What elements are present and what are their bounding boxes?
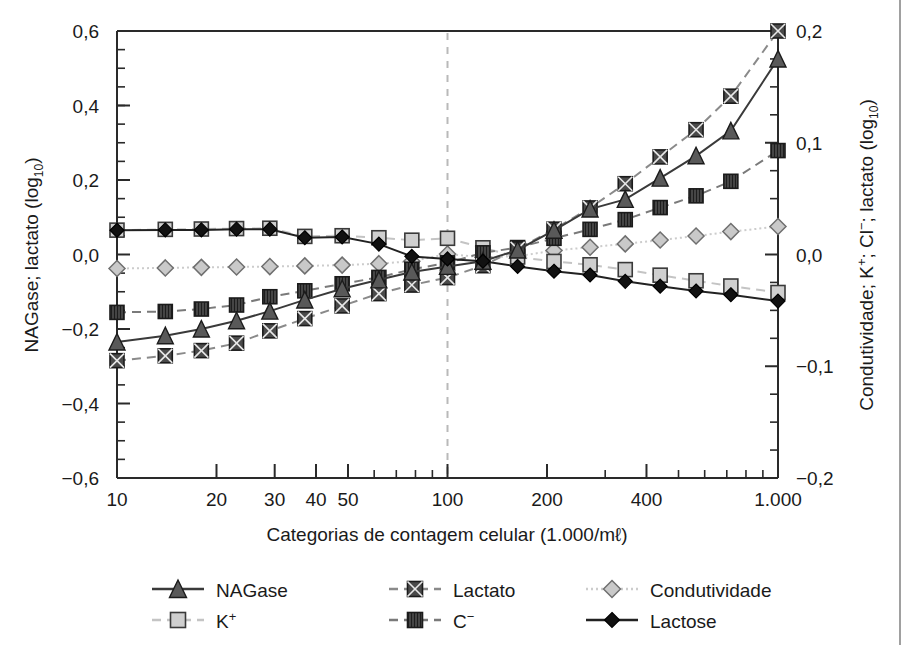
- chart-canvas: −0,6−0,4−0,20,00,20,40,6 −0,2−0,10,00,10…: [0, 0, 904, 645]
- data-point: [405, 233, 419, 247]
- left-tick-label: −0,6: [61, 468, 99, 489]
- x-tick-label: 30: [264, 489, 285, 510]
- right-tick-label: 0,2: [796, 21, 822, 42]
- data-point: [583, 222, 597, 236]
- page-background: [0, 0, 904, 645]
- right-tick-label: −0,1: [796, 356, 834, 377]
- right-tick-label: −0,2: [796, 468, 834, 489]
- right-tick-label: 0,0: [796, 245, 822, 266]
- x-axis-title: Categorias de contagem celular (1.000/mℓ…: [267, 524, 628, 545]
- data-point: [441, 231, 455, 245]
- left-tick-label: −0,4: [61, 394, 99, 415]
- x-tick-label: 200: [531, 489, 563, 510]
- x-tick-label: 1.000: [754, 489, 802, 510]
- right-axis-title: Condutividade; K+; Cl−; lactato (log10): [854, 99, 881, 411]
- left-tick-label: 0,4: [73, 96, 100, 117]
- x-tick-label: 100: [432, 489, 464, 510]
- legend-marker: [171, 613, 186, 628]
- x-tick-label: 400: [631, 489, 663, 510]
- data-point: [771, 144, 785, 158]
- right-tick-label: 0,1: [796, 133, 822, 154]
- data-point: [110, 305, 124, 319]
- figure-container: −0,6−0,4−0,20,00,20,40,6 −0,2−0,10,00,10…: [0, 0, 904, 645]
- x-tick-label: 50: [337, 489, 358, 510]
- left-tick-label: 0,2: [73, 170, 99, 191]
- x-tick-label: 40: [305, 489, 326, 510]
- x-tick-label: 20: [206, 489, 227, 510]
- legend-label: Lactato: [453, 580, 515, 601]
- data-point: [158, 304, 172, 318]
- data-point: [194, 302, 208, 316]
- data-point: [618, 213, 632, 227]
- legend-marker: [408, 613, 423, 628]
- data-point: [689, 189, 703, 203]
- legend-label: Condutividade: [650, 580, 771, 601]
- left-tick-label: 0,0: [73, 245, 99, 266]
- left-tick-label: −0,2: [61, 319, 99, 340]
- data-point: [653, 201, 667, 215]
- left-tick-label: 0,6: [73, 21, 99, 42]
- data-point: [230, 298, 244, 312]
- legend-label: Lactose: [650, 611, 717, 632]
- legend-label: NAGase: [216, 580, 288, 601]
- data-point: [724, 174, 738, 188]
- x-tick-label: 10: [106, 489, 127, 510]
